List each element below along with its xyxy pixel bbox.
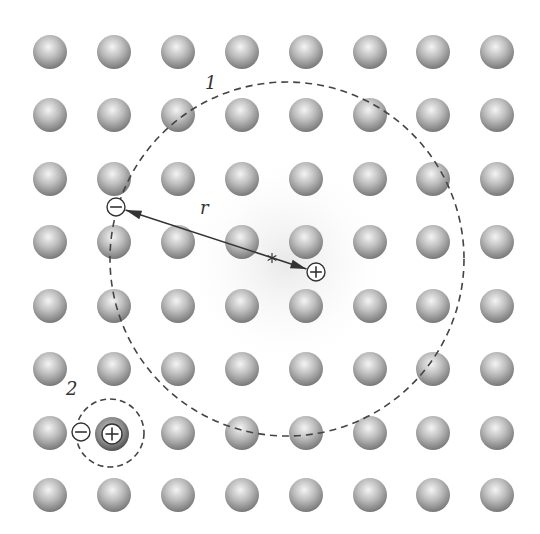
lattice-sphere — [97, 98, 131, 132]
lattice-sphere — [33, 478, 67, 512]
lattice-sphere — [480, 416, 514, 450]
lattice-sphere — [353, 225, 387, 259]
lattice-sphere — [480, 98, 514, 132]
lattice-sphere — [225, 225, 259, 259]
lattice-sphere — [33, 289, 67, 323]
lattice-sphere — [33, 162, 67, 196]
lattice-sphere — [416, 478, 450, 512]
exciton-2-label: 2 — [65, 378, 77, 399]
lattice-sphere — [480, 35, 514, 69]
lattice-sphere — [161, 225, 195, 259]
lattice-sphere — [289, 352, 323, 386]
lattice-sphere — [416, 289, 450, 323]
lattice-sphere — [33, 98, 67, 132]
lattice-sphere — [33, 225, 67, 259]
lattice-sphere — [161, 289, 195, 323]
lattice-sphere — [289, 162, 323, 196]
lattice-sphere — [353, 35, 387, 69]
lattice-sphere — [416, 162, 450, 196]
lattice-sphere — [161, 162, 195, 196]
lattice-sphere — [353, 289, 387, 323]
lattice-sphere — [480, 162, 514, 196]
lattice-sphere — [289, 478, 323, 512]
lattice-sphere — [416, 225, 450, 259]
electron-2-minus-icon — [72, 423, 90, 441]
lattice-sphere — [161, 416, 195, 450]
lattice-sphere — [353, 162, 387, 196]
lattice-sphere — [353, 98, 387, 132]
hole-1-plus-icon — [307, 263, 325, 281]
lattice-sphere — [97, 225, 131, 259]
lattice-sphere — [97, 478, 131, 512]
lattice-sphere — [161, 35, 195, 69]
lattice-sphere — [33, 35, 67, 69]
lattice-sphere — [161, 478, 195, 512]
lattice-sphere — [353, 352, 387, 386]
hole-2-plus-icon — [95, 417, 129, 451]
lattice-sphere — [225, 416, 259, 450]
lattice-sphere — [289, 98, 323, 132]
lattice-sphere — [225, 35, 259, 69]
lattice-sphere — [480, 478, 514, 512]
lattice-sphere — [161, 352, 195, 386]
lattice-sphere — [225, 98, 259, 132]
lattice-sphere — [480, 352, 514, 386]
lattice-sphere — [353, 478, 387, 512]
lattice-sphere — [416, 35, 450, 69]
lattice-sphere — [289, 289, 323, 323]
lattice-sphere — [289, 35, 323, 69]
lattice-sphere — [97, 162, 131, 196]
separation-label: r — [200, 197, 210, 218]
lattice-sphere — [97, 35, 131, 69]
exciton-1-label: 1 — [205, 72, 216, 93]
lattice-sphere — [225, 162, 259, 196]
lattice-sphere — [33, 416, 67, 450]
lattice-sphere — [480, 225, 514, 259]
arrowhead-electron-icon — [126, 210, 143, 219]
lattice-sphere — [161, 98, 195, 132]
lattice-sphere — [416, 98, 450, 132]
lattice-sphere — [225, 352, 259, 386]
lattice-sphere — [225, 289, 259, 323]
lattice-sphere — [289, 225, 323, 259]
lattice-sphere — [480, 289, 514, 323]
lattice-sphere — [97, 352, 131, 386]
lattice-sphere — [416, 352, 450, 386]
lattice-sphere — [225, 478, 259, 512]
electron-1-minus-icon — [107, 198, 125, 216]
lattice-sphere — [33, 352, 67, 386]
lattice-sphere — [416, 416, 450, 450]
lattice-diagram: 1 2 r — [0, 0, 540, 534]
